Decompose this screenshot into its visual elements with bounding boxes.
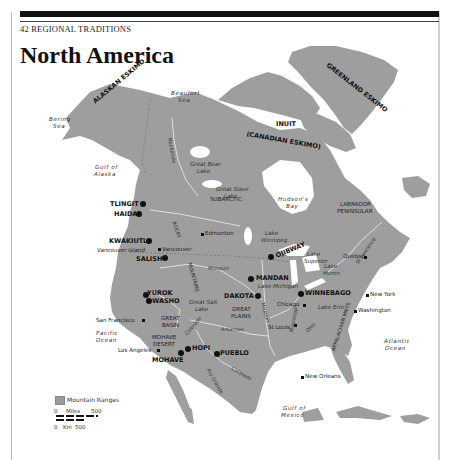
tribe-label-dakota: DAKOTA [224, 293, 254, 300]
city-marker-new-orleans [301, 376, 304, 379]
city-marker-chicago [303, 304, 306, 307]
tribe-marker-salish [162, 255, 168, 261]
water-label-lake-winnipeg-2: Winnipeg [261, 238, 287, 244]
water-label-bering-sea-1: Bering [49, 117, 71, 123]
water-label-gulf-of-alaska-1: Gulf of [95, 165, 118, 171]
legend-label-mountain-ranges: Mountain Ranges [67, 396, 119, 403]
river-label-missouri: Missouri [208, 266, 229, 271]
tribe-label-tlingit: TLINGIT [110, 201, 139, 208]
tribe-marker-mandan [248, 276, 254, 282]
great-bear-lake [190, 146, 210, 158]
water-label-great-salt-lake-1: Great Salt [189, 300, 217, 306]
city-marker-los-angeles [157, 349, 160, 352]
tribe-marker-haida [136, 211, 142, 217]
tribe-label-pueblo: PUEBLO [220, 350, 249, 357]
scale-km-label: Km [63, 424, 72, 430]
tribe-label-mandan: MANDAN [256, 275, 289, 282]
scale-miles-zero: 0 [54, 408, 58, 414]
region-label-peninsular: PENINSULAR [337, 209, 373, 215]
water-label-lake-michigan: Lake Michigan [258, 284, 298, 290]
region-label-mohave-desert-1: MOHAVE [152, 335, 176, 341]
water-label-beaufort-sea-2: Sea [178, 98, 190, 104]
city-marker-st-louis [294, 324, 297, 327]
tribe-marker-winnebago [298, 291, 304, 297]
water-label-great-slave-lake-1: Great Slave [216, 187, 249, 193]
water-label-lake-huron-1: Lake [324, 264, 337, 270]
tribe-marker-dakota [255, 293, 261, 299]
water-label-great-bear-lake-2: Lake [197, 169, 210, 175]
region-label-great-plains-2: PLAINS [231, 314, 251, 320]
city-marker-edmonton [201, 233, 204, 236]
water-label-atlantic-ocean-2: Ocean [385, 346, 406, 352]
tribe-label-washo: WASHO [152, 298, 180, 305]
water-label-beaufort-sea-1: Beaufort [171, 91, 200, 97]
tribe-marker-hopi [185, 346, 191, 352]
city-marker-vancouver [158, 248, 161, 251]
scale-miles-label: Miles [66, 408, 80, 414]
city-marker-san-francisco [142, 319, 145, 322]
region-label-labrador: LABRADOR [340, 202, 371, 208]
tribe-label-salish: SALISH [136, 256, 162, 263]
city-label-new-york: New York [370, 292, 396, 298]
water-label-gulf-of-mexico-1: Gulf of [283, 406, 306, 412]
water-label-pacific-ocean-1: Pacific [96, 331, 118, 337]
city-label-san-francisco: San Francisco [96, 318, 134, 324]
water-label-great-slave-lake-2: Lake [224, 194, 237, 200]
water-label-lake-huron-2: Huron [323, 271, 340, 277]
scale-bar-miles [56, 415, 98, 417]
tribe-label-winnebago: WINNEBAGO [305, 290, 351, 297]
tribe-label-kwakiutl: KWAKIUTL [109, 238, 147, 245]
water-label-hudsons-bay-1: Hudson's [278, 197, 308, 203]
water-label-hudsons-bay-2: Bay [286, 204, 298, 210]
city-label-new-orleans: New Orleans [305, 374, 341, 380]
tribe-marker-tlingit [140, 201, 146, 207]
lake-winnipeg [244, 227, 252, 245]
city-label-los-angeles: Los Angeles [118, 348, 151, 354]
water-label-atlantic-ocean-1: Atlantic [384, 339, 410, 345]
water-label-gulf-of-alaska-2: Alaska [94, 172, 116, 178]
region-label-great-basin-1: GREAT [161, 316, 180, 322]
scale-km-zero: 0 [54, 424, 58, 430]
city-label-vancouver: Vancouver [162, 247, 191, 253]
tribe-label-haida: HAIDA [114, 211, 137, 218]
tribe-marker-ojibway [268, 254, 274, 260]
water-label-bering-sea-2: Sea [53, 124, 65, 130]
place-label-vancouver-island: Vancouver Island [97, 248, 145, 254]
region-label-mohave-desert-2: DESERT [153, 342, 175, 348]
city-marker-washington [354, 310, 357, 313]
scale-miles-max: 500 [91, 408, 102, 414]
cuba-island [336, 406, 392, 420]
city-label-quebec: Quebec [343, 254, 364, 260]
city-label-chicago: Chicago [277, 302, 299, 308]
water-label-great-salt-lake-2: Lake [195, 307, 208, 313]
water-label-lake-winnipeg-1: Lake [265, 231, 278, 237]
tribe-label-mohave: MOHAVE [152, 357, 184, 364]
tribe-label-hopi: HOPI [192, 345, 210, 352]
legend-mountain-swatch [55, 396, 65, 405]
water-label-pacific-ocean-2: Ocean [96, 338, 117, 344]
region-label-great-basin-2: BASIN [162, 323, 179, 329]
water-label-gulf-of-mexico-2: Mexico [281, 413, 304, 419]
water-label-lake-superior-1: Lake [307, 252, 320, 258]
newfoundland-island [402, 176, 430, 198]
city-label-edmonton: Edmonton [205, 231, 234, 237]
scale-bar-km [56, 419, 84, 421]
water-label-lake-erie: Lake Erie [318, 305, 344, 311]
river-label-arkansas: Arkansas [221, 327, 244, 332]
city-marker-new-york [366, 294, 369, 297]
tribe-label-inuit: INUIT [276, 121, 296, 128]
scale-km-max: 500 [75, 424, 86, 430]
water-label-great-bear-lake-1: Great Bear [190, 162, 220, 168]
city-label-st-louis: St Louis [268, 325, 290, 331]
region-label-great-plains-1: GREAT [232, 307, 251, 313]
tribe-label-yurok: YUROK [147, 290, 173, 297]
city-label-washington: Washington [358, 308, 391, 314]
tribe-marker-kwakiutl [146, 238, 152, 244]
hispaniola-island [400, 414, 430, 424]
city-marker-quebec [364, 256, 367, 259]
